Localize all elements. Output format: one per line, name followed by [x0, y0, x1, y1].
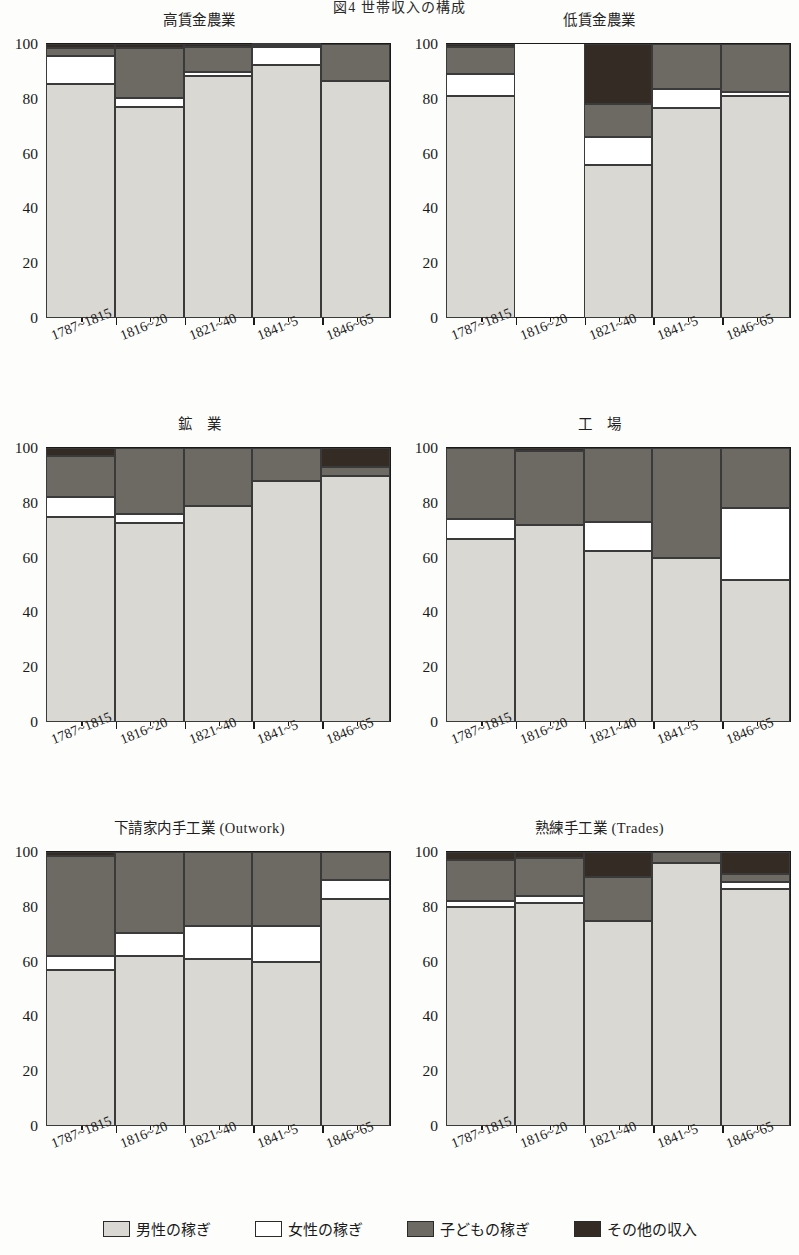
bar-segment-women	[46, 497, 115, 516]
bar-segment-children	[46, 456, 115, 497]
bar-segment-men	[252, 962, 321, 1126]
bar-segment-other	[184, 44, 253, 47]
bar-outwork-1	[116, 851, 185, 1125]
bar-segment-other	[46, 448, 115, 456]
bar-segment-children	[584, 104, 653, 137]
y-tick-label: 80	[0, 91, 38, 107]
bar-segment-children	[446, 860, 515, 901]
bar-segment-other	[515, 448, 584, 451]
bar-factory-2	[585, 447, 654, 721]
bar-segment-children	[321, 44, 390, 81]
bar-low-wage-agriculture-0	[447, 43, 516, 317]
bar-high-wage-agriculture-3	[253, 43, 322, 317]
y-tick-label: 80	[0, 899, 38, 915]
chart-panel-trades: 熟練手工業 (Trades)0204060801001787~18151816~…	[400, 816, 799, 1220]
legend-item-children: 子どもの稼ぎ	[407, 1218, 530, 1239]
bar-mining-4	[322, 447, 391, 721]
bar-segment-children	[584, 877, 653, 921]
bar-low-wage-agriculture-3	[653, 43, 722, 317]
plot-area-factory: 0204060801001787~18151816~201821~401841~…	[446, 448, 790, 722]
y-tick-label: 0	[392, 1118, 438, 1134]
bar-segment-women	[46, 56, 115, 83]
bar-segment-children	[721, 448, 790, 508]
y-tick-label: 60	[392, 550, 438, 566]
bar-segment-men	[46, 84, 115, 318]
y-tick-label: 100	[392, 36, 438, 52]
bar-segment-other	[584, 44, 653, 104]
y-tick-label: 100	[0, 844, 38, 860]
bar-low-wage-agriculture-2	[585, 43, 654, 317]
bar-segment-women	[584, 522, 653, 551]
legend-swatch-women-icon	[255, 1221, 282, 1237]
bar-trades-4	[722, 851, 791, 1125]
bar-segment-children	[252, 448, 321, 481]
y-tick-label: 100	[392, 844, 438, 860]
bar-segment-men	[652, 558, 721, 722]
bar-segment-children	[184, 852, 253, 926]
bar-segment-other	[515, 852, 584, 857]
bar-segment-other	[46, 44, 115, 48]
y-tick-label: 100	[0, 36, 38, 52]
bar-segment-other	[252, 43, 321, 45]
bar-segment-children	[446, 47, 515, 74]
y-tick-label: 20	[392, 659, 438, 675]
bar-outwork-4	[322, 851, 391, 1125]
x-tick-mark	[516, 722, 517, 729]
x-tick-mark	[116, 1126, 117, 1133]
bar-segment-other	[721, 852, 790, 874]
bar-segment-children	[184, 47, 253, 72]
bar-segment-children	[115, 48, 184, 97]
x-tick-mark	[253, 722, 254, 729]
y-tick-label: 0	[0, 1118, 38, 1134]
y-tick-label: 40	[392, 605, 438, 621]
y-tick-label: 0	[392, 310, 438, 326]
bar-segment-women	[115, 933, 184, 956]
y-tick-label: 0	[0, 714, 38, 730]
bar-segment-women	[721, 92, 790, 96]
legend-item-other: その他の収入	[574, 1218, 697, 1239]
bar-segment-children	[721, 44, 790, 92]
chart-title-mining: 鉱 業	[0, 412, 399, 433]
bar-segment-men	[721, 96, 790, 318]
plot-area-mining: 0204060801001787~18151816~201821~401841~…	[46, 448, 390, 722]
x-tick-mark	[253, 318, 254, 325]
x-tick-mark	[322, 1126, 323, 1133]
y-tick-label: 80	[392, 495, 438, 511]
y-tick-label: 60	[0, 550, 38, 566]
bar-segment-men	[652, 863, 721, 1126]
bar-high-wage-agriculture-1	[116, 43, 185, 317]
bar-segment-men	[446, 907, 515, 1126]
y-tick-label: 60	[392, 954, 438, 970]
x-tick-mark	[185, 318, 186, 325]
bar-segment-men	[252, 481, 321, 722]
bar-factory-4	[722, 447, 791, 721]
bar-segment-men	[115, 523, 184, 722]
x-tick-mark	[253, 1126, 254, 1133]
bar-factory-0	[447, 447, 516, 721]
bar-segment-women	[184, 926, 253, 959]
legend-item-men: 男性の稼ぎ	[103, 1218, 211, 1239]
bar-segment-women	[721, 508, 790, 579]
bar-segment-men	[184, 76, 253, 318]
bar-segment-men	[252, 65, 321, 318]
chart-title-low-wage-agriculture: 低賃金農業	[400, 8, 799, 29]
x-tick-mark	[585, 722, 586, 729]
bar-segment-men	[652, 108, 721, 318]
bar-factory-3	[653, 447, 722, 721]
bar-segment-men	[46, 970, 115, 1126]
y-tick-label: 20	[392, 255, 438, 271]
bar-segment-other	[584, 852, 653, 877]
bar-segment-children	[446, 448, 515, 519]
plot-area-low-wage-agriculture: 0204060801001787~18151816~201821~401841~…	[446, 44, 790, 318]
legend-swatch-other-icon	[574, 1221, 601, 1237]
legend-item-women: 女性の稼ぎ	[255, 1218, 363, 1239]
bar-segment-women	[46, 956, 115, 970]
bar-mining-2	[185, 447, 254, 721]
bar-trades-3	[653, 851, 722, 1125]
x-tick-mark	[322, 318, 323, 325]
bar-trades-0	[447, 851, 516, 1125]
bar-segment-children	[652, 448, 721, 558]
y-tick-label: 40	[0, 1009, 38, 1025]
bar-segment-children	[652, 852, 721, 863]
y-tick-label: 60	[0, 954, 38, 970]
